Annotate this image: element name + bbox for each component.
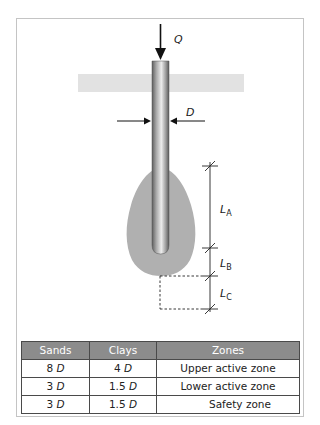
table-header-row: Sands Clays Zones [22,342,300,360]
cell-zone: Lower active zone [157,378,300,396]
cell-sands: 3 D [22,378,90,396]
table-row: 3 D 1.5 D Lower active zone [22,378,300,396]
cell-zone: Safety zone [157,396,300,414]
diameter-label: D [186,107,194,118]
cell-clays: 1.5 D [90,396,157,414]
header-clays: Clays [90,342,157,360]
dimension-line [202,161,218,314]
header-zones: Zones [157,342,300,360]
cell-sands: 3 D [22,396,90,414]
pile-shaft [152,61,169,254]
load-arrow-icon [155,24,166,60]
load-label: Q [174,34,183,45]
zone-c-label: LC [220,288,232,302]
cell-sands: 8 D [22,360,90,378]
zone-b-label: LB [220,258,232,272]
cell-clays: 1.5 D [90,378,157,396]
zones-table: Sands Clays Zones 8 D 4 D Upper active z… [21,341,300,414]
safety-zone-outline [160,276,202,309]
cell-zone: Upper active zone [157,360,300,378]
table-row: 8 D 4 D Upper active zone [22,360,300,378]
table-row: 3 D 1.5 D Safety zone [22,396,300,414]
header-sands: Sands [22,342,90,360]
cell-clays: 4 D [90,360,157,378]
zone-a-label: LA [220,204,232,218]
